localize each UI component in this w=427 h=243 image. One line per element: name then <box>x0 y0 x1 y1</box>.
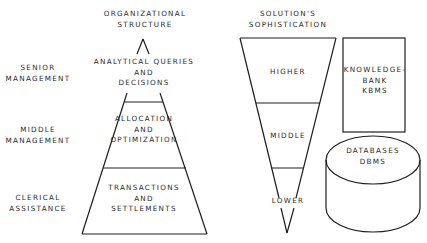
pyramid-middle-label: ALLOCATION AND OPTIMIZATION <box>103 114 185 146</box>
level-senior-management: SENIOR MANAGEMENT <box>2 63 74 84</box>
title-line: SOLUTION'S <box>236 9 340 20</box>
kb-line: KBMS <box>343 86 407 97</box>
level-line: CLERICAL <box>2 193 74 204</box>
funnel-higher-label: HIGHER <box>258 67 318 78</box>
db-line: DATABASES <box>340 146 406 157</box>
pyramid-line: ANALYTICAL QUERIES <box>83 57 205 68</box>
level-line: SENIOR <box>2 63 74 74</box>
level-line: ASSISTANCE <box>2 204 74 215</box>
level-line: MANAGEMENT <box>2 136 74 147</box>
pyramid-line: AND <box>94 194 194 205</box>
pyramid-line: AND <box>103 125 185 136</box>
pyramid-line: OPTIMIZATION <box>103 135 185 146</box>
organizational-structure-title: ORGANIZATIONAL STRUCTURE <box>93 9 197 30</box>
pyramid-line: DECISIONS <box>83 78 205 89</box>
pyramid-top-label: ANALYTICAL QUERIES AND DECISIONS <box>83 57 205 89</box>
funnel-lower-label: LOWER <box>258 196 318 207</box>
level-clerical-assistance: CLERICAL ASSISTANCE <box>2 193 74 214</box>
databases-label: DATABASES DBMS <box>340 146 406 167</box>
pyramid-line: AND <box>83 68 205 79</box>
title-line: ORGANIZATIONAL <box>93 9 197 20</box>
kb-line: KNOWLEDGE- <box>343 65 407 76</box>
title-line: SOPHISTICATION <box>236 20 340 31</box>
pyramid-bottom-label: TRANSACTIONS AND SETTLEMENTS <box>94 183 194 215</box>
funnel-middle-label: MIDDLE <box>258 131 318 142</box>
db-line: DBMS <box>340 157 406 168</box>
pyramid-line: ALLOCATION <box>103 114 185 125</box>
knowledge-bank-label: KNOWLEDGE- BANK KBMS <box>343 65 407 97</box>
pyramid-line: SETTLEMENTS <box>94 204 194 215</box>
solution-sophistication-title: SOLUTION'S SOPHISTICATION <box>236 9 340 30</box>
pyramid-line: TRANSACTIONS <box>94 183 194 194</box>
title-line: STRUCTURE <box>93 20 197 31</box>
kb-line: BANK <box>343 76 407 87</box>
level-line: MANAGEMENT <box>2 74 74 85</box>
level-line: MIDDLE <box>2 125 74 136</box>
level-middle-management: MIDDLE MANAGEMENT <box>2 125 74 146</box>
